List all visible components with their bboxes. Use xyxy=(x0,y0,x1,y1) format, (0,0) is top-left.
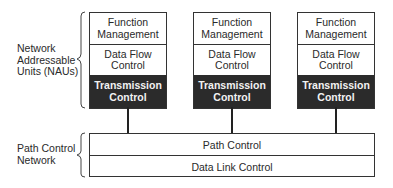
transmission-control-layer: TransmissionControl xyxy=(90,75,166,108)
nau-stack-1: FunctionManagement Data FlowControl Tran… xyxy=(89,12,167,109)
nau-label-line-1: Network xyxy=(17,43,78,55)
pcn-label-line-1: Path Control xyxy=(17,143,75,155)
transmission-control-layer: TransmissionControl xyxy=(194,75,270,108)
pcn-group-label: Path Control Network xyxy=(17,143,75,166)
pcn-brace-icon xyxy=(76,131,86,179)
nau-stack-3: FunctionManagement Data FlowControl Tran… xyxy=(297,12,375,109)
path-control-layer: Path Control xyxy=(90,134,374,156)
connector-line-3 xyxy=(335,107,337,133)
function-management-layer: FunctionManagement xyxy=(194,13,270,45)
function-management-layer: FunctionManagement xyxy=(298,13,374,45)
connector-line-1 xyxy=(127,107,129,133)
pcn-label-line-2: Network xyxy=(17,155,75,167)
data-flow-control-layer: Data FlowControl xyxy=(90,45,166,75)
data-flow-control-layer: Data FlowControl xyxy=(194,45,270,75)
path-control-network-box: Path Control Data Link Control xyxy=(89,133,375,177)
nau-brace-icon xyxy=(76,10,86,110)
nau-group-label: Network Addressable Units (NAUs) xyxy=(17,43,78,78)
nau-stack-2: FunctionManagement Data FlowControl Tran… xyxy=(193,12,271,109)
function-management-layer: FunctionManagement xyxy=(90,13,166,45)
transmission-control-layer: TransmissionControl xyxy=(298,75,374,108)
data-link-control-layer: Data Link Control xyxy=(90,156,374,178)
nau-label-line-3: Units (NAUs) xyxy=(17,66,78,78)
data-flow-control-layer: Data FlowControl xyxy=(298,45,374,75)
connector-line-2 xyxy=(231,107,233,133)
